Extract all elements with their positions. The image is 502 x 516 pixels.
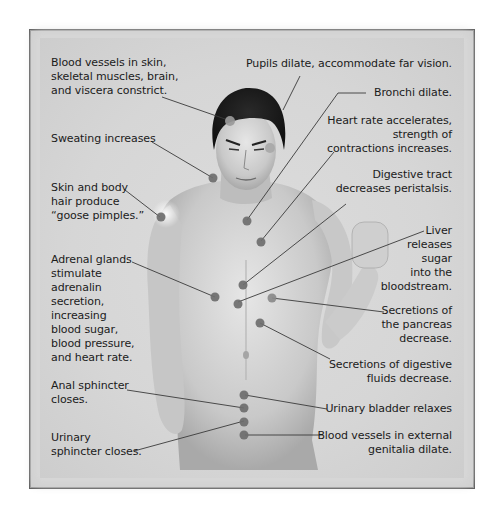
dot-pancreas xyxy=(268,294,277,303)
label-pancreas: Secretions of the pancreas decrease. xyxy=(381,304,452,346)
line-sweating xyxy=(152,142,213,178)
label-goose-pimples: Skin and body hair produce “goose pimple… xyxy=(51,181,144,223)
dot-blood-vessels-constrict xyxy=(225,116,235,126)
dot-goose-pimples xyxy=(157,213,166,222)
label-urinary-sphincter: Urinary sphincter closes. xyxy=(51,431,142,459)
left-arm xyxy=(147,205,184,434)
label-urinary-bladder: Urinary bladder relaxes xyxy=(325,402,452,416)
dot-sweating xyxy=(209,174,218,183)
dot-digestive-fluids xyxy=(256,319,265,328)
dot-liver xyxy=(234,300,243,309)
dot-genitalia xyxy=(240,431,249,440)
dot-heart-rate xyxy=(257,238,266,247)
label-blood-vessels-constrict: Blood vessels in skin, skeletal muscles,… xyxy=(51,56,178,98)
dot-bronchi xyxy=(243,217,252,226)
dot-adrenal xyxy=(211,293,220,302)
line-pupils xyxy=(283,76,300,110)
dot-urinary-sphincter xyxy=(240,418,249,427)
label-liver: Liver releases sugar into the bloodstrea… xyxy=(381,224,452,294)
dot-pupils xyxy=(265,143,275,153)
label-genitalia: Blood vessels in external genitalia dila… xyxy=(317,429,452,457)
navel xyxy=(243,351,249,359)
dot-urinary-bladder xyxy=(240,391,249,400)
label-pupils: Pupils dilate, accommodate far vision. xyxy=(246,57,452,71)
label-bronchi: Bronchi dilate. xyxy=(374,86,452,100)
label-sweating: Sweating increases xyxy=(51,132,156,146)
label-anal-sphincter: Anal sphincter closes. xyxy=(51,379,129,407)
label-digestive-tract: Digestive tract decreases peristalsis. xyxy=(336,168,452,196)
label-digestive-fluids: Secretions of digestive fluids decrease. xyxy=(329,358,452,386)
label-adrenal: Adrenal glands stimulate adrenalin secre… xyxy=(51,253,135,365)
dot-digestive-tract xyxy=(239,281,248,290)
dot-anal-sphincter xyxy=(240,404,249,413)
label-heart-rate: Heart rate accelerates, strength of cont… xyxy=(327,114,452,156)
